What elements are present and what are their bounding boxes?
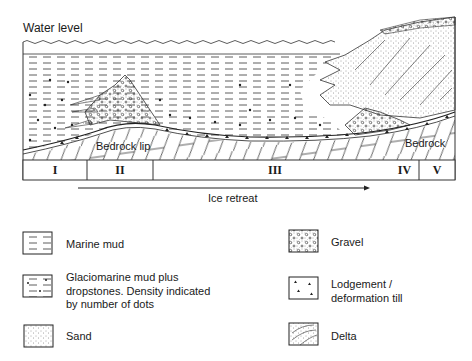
legend-swatch-delta — [289, 323, 318, 345]
legend-glaciomarine-line1: Glaciomarine mud plus — [66, 271, 210, 285]
legend-swatch-glaciomarine — [23, 275, 52, 297]
legend-till-line1: Lodgement / — [331, 278, 403, 292]
zone-iii: III — [153, 163, 397, 178]
ice-retreat-label: Ice retreat — [208, 192, 258, 205]
legend-glaciomarine: Glaciomarine mud plus dropstones. Densit… — [66, 271, 210, 312]
legend-till-line2: deformation till — [331, 292, 403, 306]
legend-swatch-till — [289, 277, 318, 299]
legend-sand: Sand — [66, 330, 92, 344]
legend-till: Lodgement / deformation till — [331, 278, 403, 305]
zone-ii: II — [87, 163, 153, 178]
water-level-label: Water level — [23, 22, 83, 35]
legend-delta: Delta — [331, 330, 357, 344]
legend-swatch-marine-mud — [23, 232, 52, 254]
zone-iv: IV — [390, 163, 419, 178]
bedrock-label: Bedrock — [405, 137, 445, 150]
legend-glaciomarine-line2: dropstones. Density indicated — [66, 285, 210, 299]
zone-v: V — [419, 163, 455, 178]
zone-i: I — [23, 163, 87, 178]
bedrock-lip-label: Bedrock lip — [96, 140, 150, 153]
legend-swatch-gravel — [289, 230, 318, 252]
legend-glaciomarine-line3: by number of dots — [66, 298, 210, 312]
legend-swatch-sand — [24, 325, 53, 347]
water-surface — [23, 41, 335, 44]
legend-gravel: Gravel — [331, 236, 363, 250]
legend-marine-mud: Marine mud — [66, 238, 124, 252]
